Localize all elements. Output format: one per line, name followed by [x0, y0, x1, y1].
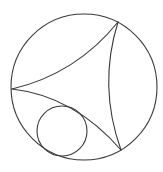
upper-geodesic-arc	[12, 22, 118, 89]
small-tangent-circle	[37, 106, 87, 156]
right-geodesic-arc	[109, 22, 121, 150]
hyperbolic-disk-figure	[0, 0, 163, 172]
diagram-canvas	[0, 0, 163, 172]
boundary-circle	[11, 14, 157, 160]
lower-geodesic-arc	[12, 89, 121, 150]
